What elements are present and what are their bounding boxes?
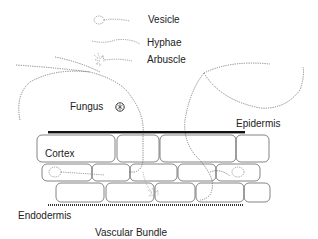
label-vascular-bundle: Vascular Bundle <box>95 228 167 238</box>
fungus-spore-icon <box>116 103 124 111</box>
label-fungus: Fungus <box>70 102 103 112</box>
label-endodermis: Endodermis <box>18 211 71 221</box>
label-cortex: Cortex <box>45 149 74 159</box>
legend-label-arbuscle: Arbuscle <box>147 55 186 65</box>
label-epidermis: Epidermis <box>236 119 280 129</box>
arbuscle-icon <box>94 53 132 67</box>
legend-label-hyphae: Hyphae <box>147 38 181 48</box>
hyphae-icon <box>92 40 140 45</box>
legend-label-vesicle: Vesicle <box>148 15 180 25</box>
cortex-row-2 <box>42 164 260 181</box>
extraradical-hyphae-left <box>16 57 143 172</box>
intraradical-vesicle-left <box>49 167 105 177</box>
cortex-row-3 <box>56 183 270 202</box>
intraradical-vesicle-right <box>232 167 244 177</box>
vesicle-icon <box>94 16 130 24</box>
epidermis-layer <box>48 131 245 133</box>
